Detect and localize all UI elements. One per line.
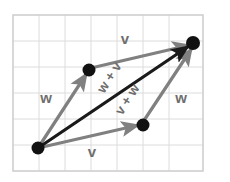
label-w-left: w [39, 89, 52, 106]
label-v-top: v [121, 30, 130, 47]
label-w-right: w [174, 89, 187, 106]
point-resultant-head [186, 36, 200, 50]
vector-addition-diagram: v w w v w + v v + w [0, 0, 230, 182]
label-v-bottom: v [88, 143, 97, 160]
point-head-of-v [137, 119, 150, 132]
point-head-of-w [83, 64, 96, 77]
point-origin [32, 142, 45, 155]
figure-container: v w w v w + v v + w [0, 0, 230, 182]
